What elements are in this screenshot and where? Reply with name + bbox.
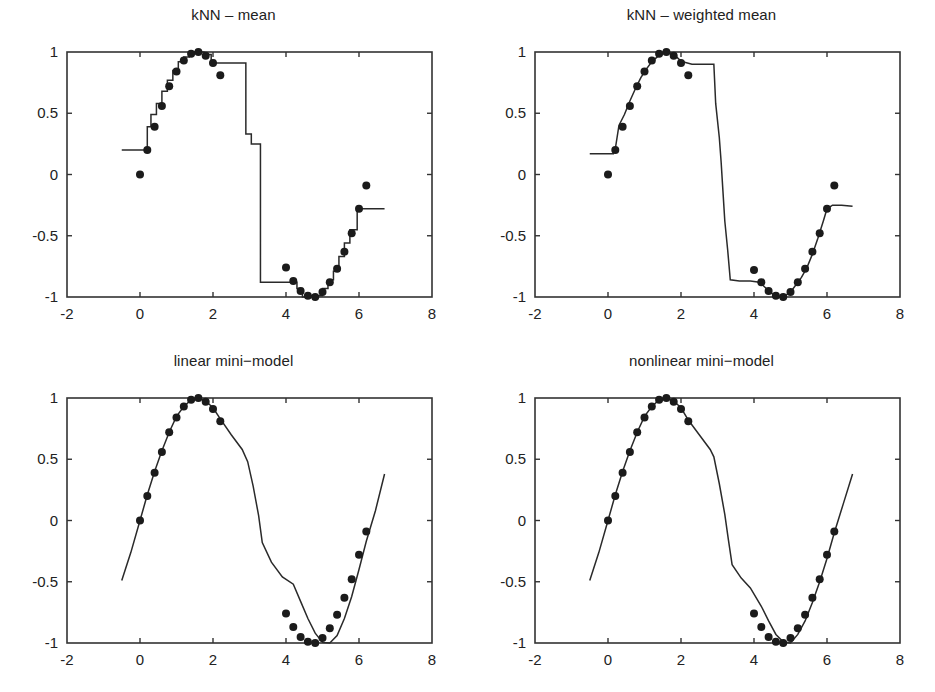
data-point-marker bbox=[619, 123, 627, 131]
data-point-group bbox=[604, 394, 838, 647]
data-point-marker bbox=[765, 287, 773, 295]
x-tick-label: 0 bbox=[136, 305, 144, 322]
data-point-marker bbox=[340, 248, 348, 256]
data-point-marker bbox=[362, 528, 370, 536]
x-tick-label: -2 bbox=[528, 305, 541, 322]
data-point-marker bbox=[808, 594, 816, 602]
y-tick-label: 0.5 bbox=[505, 450, 526, 467]
data-point-marker bbox=[801, 265, 809, 273]
data-point-marker bbox=[194, 394, 202, 402]
data-point-marker bbox=[677, 59, 685, 67]
plot-area-nonlinear-mini-model: -202468-1-0.500.51 bbox=[468, 346, 935, 692]
data-point-marker bbox=[355, 205, 363, 213]
data-point-marker bbox=[772, 292, 780, 300]
data-point-marker bbox=[619, 469, 627, 477]
data-point-marker bbox=[355, 551, 363, 559]
data-point-group bbox=[136, 394, 370, 647]
data-point-marker bbox=[209, 405, 217, 413]
data-point-marker bbox=[165, 428, 173, 436]
data-point-marker bbox=[289, 623, 297, 631]
y-tick-label: -1 bbox=[513, 288, 526, 305]
data-point-marker bbox=[282, 264, 290, 272]
data-point-marker bbox=[326, 278, 334, 286]
y-tick-label: 0.5 bbox=[37, 450, 58, 467]
x-tick-label: 4 bbox=[750, 305, 758, 322]
data-point-marker bbox=[143, 492, 151, 500]
data-point-marker bbox=[333, 265, 341, 273]
prediction-curve bbox=[122, 398, 385, 643]
y-tick-label: -1 bbox=[45, 288, 58, 305]
data-point-marker bbox=[779, 639, 787, 647]
data-point-marker bbox=[304, 638, 312, 646]
data-point-marker bbox=[209, 59, 217, 67]
x-tick-label: 6 bbox=[823, 651, 831, 668]
data-point-marker bbox=[289, 277, 297, 285]
data-point-marker bbox=[794, 278, 802, 286]
data-point-marker bbox=[655, 50, 663, 58]
y-tick-label: -1 bbox=[513, 634, 526, 651]
y-tick-label: 0 bbox=[518, 512, 526, 529]
x-tick-label: 4 bbox=[750, 651, 758, 668]
x-tick-label: 8 bbox=[428, 305, 436, 322]
data-point-marker bbox=[136, 517, 144, 525]
data-point-marker bbox=[765, 633, 773, 641]
data-point-marker bbox=[662, 48, 670, 56]
data-point-marker bbox=[648, 57, 656, 65]
data-point-marker bbox=[216, 71, 224, 79]
data-point-marker bbox=[641, 414, 649, 422]
data-point-marker bbox=[143, 146, 151, 154]
data-point-marker bbox=[311, 293, 319, 301]
data-point-marker bbox=[326, 624, 334, 632]
data-point-marker bbox=[823, 551, 831, 559]
data-point-marker bbox=[648, 403, 656, 411]
data-point-marker bbox=[202, 398, 210, 406]
data-point-marker bbox=[662, 394, 670, 402]
data-point-marker bbox=[684, 417, 692, 425]
data-point-marker bbox=[604, 517, 612, 525]
y-tick-label: -0.5 bbox=[500, 227, 526, 244]
data-point-marker bbox=[297, 633, 305, 641]
x-tick-label: 6 bbox=[355, 651, 363, 668]
plot-area-knn-weighted-mean: -202468-1-0.500.51 bbox=[468, 0, 935, 346]
x-tick-label: -2 bbox=[60, 305, 73, 322]
data-point-marker bbox=[311, 639, 319, 647]
y-tick-label: -0.5 bbox=[32, 227, 58, 244]
x-tick-label: -2 bbox=[528, 651, 541, 668]
data-point-marker bbox=[180, 403, 188, 411]
x-tick-label: 4 bbox=[282, 651, 290, 668]
y-tick-label: 0 bbox=[518, 166, 526, 183]
data-point-marker bbox=[151, 123, 159, 131]
data-point-marker bbox=[757, 278, 765, 286]
data-point-marker bbox=[304, 292, 312, 300]
prediction-curve bbox=[122, 52, 385, 297]
y-tick-label: 1 bbox=[50, 389, 58, 406]
axis-box bbox=[535, 52, 900, 297]
y-tick-label: 1 bbox=[518, 389, 526, 406]
data-point-marker bbox=[611, 492, 619, 500]
data-point-marker bbox=[626, 102, 634, 110]
subplot-nonlinear-mini-model: nonlinear mini−model-202468-1-0.500.51 bbox=[468, 346, 935, 692]
data-point-marker bbox=[173, 414, 181, 422]
data-point-marker bbox=[750, 610, 758, 618]
plot-area-linear-mini-model: -202468-1-0.500.51 bbox=[0, 346, 467, 692]
data-point-marker bbox=[670, 52, 678, 60]
data-point-marker bbox=[633, 82, 641, 90]
y-tick-label: 0 bbox=[50, 166, 58, 183]
data-point-marker bbox=[348, 575, 356, 583]
data-point-marker bbox=[216, 417, 224, 425]
data-point-marker bbox=[340, 594, 348, 602]
y-tick-label: 0.5 bbox=[505, 104, 526, 121]
data-point-marker bbox=[677, 405, 685, 413]
data-point-marker bbox=[319, 634, 327, 642]
y-tick-label: 1 bbox=[50, 43, 58, 60]
x-tick-label: 0 bbox=[136, 651, 144, 668]
data-point-marker bbox=[173, 68, 181, 76]
axis-box bbox=[67, 398, 432, 643]
data-point-marker bbox=[187, 396, 195, 404]
data-point-marker bbox=[684, 71, 692, 79]
data-point-marker bbox=[348, 229, 356, 237]
data-point-marker bbox=[830, 528, 838, 536]
data-point-marker bbox=[823, 205, 831, 213]
x-tick-label: 0 bbox=[604, 651, 612, 668]
data-point-group bbox=[136, 48, 370, 301]
